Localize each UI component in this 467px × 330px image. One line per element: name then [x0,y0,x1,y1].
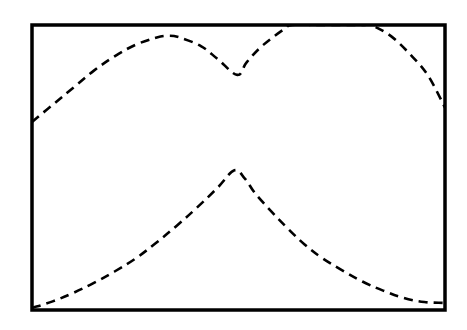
chart [0,0,467,330]
plot-frame [32,25,445,310]
lower-dashed-curve [32,170,443,308]
upper-dashed-curve [32,24,445,122]
plot-area [32,24,445,308]
